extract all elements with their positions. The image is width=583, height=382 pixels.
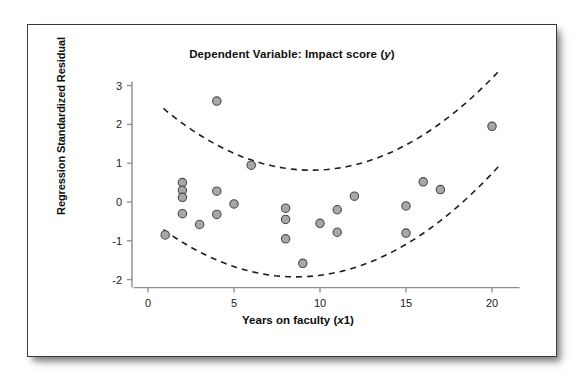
x-tick-label: 20 bbox=[486, 297, 498, 309]
data-point bbox=[213, 187, 221, 195]
data-point bbox=[316, 219, 324, 227]
data-point bbox=[213, 97, 221, 105]
y-tick-label: 2 bbox=[116, 118, 122, 130]
data-point bbox=[419, 178, 427, 186]
y-tick-label: -1 bbox=[112, 235, 122, 247]
scatter-plot-chart: Dependent Variable: Impact score (y) Reg… bbox=[28, 25, 556, 356]
data-point bbox=[281, 235, 289, 243]
data-point bbox=[161, 231, 169, 239]
x-tick-label: 0 bbox=[145, 297, 151, 309]
plot-canvas: -2-1012305101520 bbox=[28, 25, 558, 358]
figure-card: Dependent Variable: Impact score (y) Reg… bbox=[27, 24, 557, 357]
axes-layer bbox=[127, 82, 520, 293]
upper-confidence-band bbox=[163, 71, 498, 170]
data-point bbox=[333, 228, 341, 236]
data-point bbox=[402, 202, 410, 210]
y-tick-label: 3 bbox=[116, 80, 122, 92]
data-point bbox=[333, 206, 341, 214]
data-point bbox=[247, 161, 255, 169]
data-point bbox=[178, 209, 186, 217]
x-tick-label: 10 bbox=[314, 297, 326, 309]
data-point bbox=[178, 193, 186, 201]
data-point bbox=[281, 204, 289, 212]
data-point bbox=[488, 122, 496, 130]
data-point bbox=[213, 210, 221, 218]
data-point bbox=[281, 215, 289, 223]
data-point bbox=[436, 185, 444, 193]
lower-confidence-band bbox=[163, 166, 498, 277]
data-point bbox=[299, 259, 307, 267]
data-point bbox=[230, 200, 238, 208]
x-tick-label: 5 bbox=[231, 297, 237, 309]
y-tick-label: 1 bbox=[116, 157, 122, 169]
data-points-layer bbox=[161, 97, 496, 268]
y-tick-label: -2 bbox=[112, 274, 122, 286]
data-point bbox=[402, 229, 410, 237]
y-tick-label: 0 bbox=[116, 196, 122, 208]
x-tick-label: 15 bbox=[400, 297, 412, 309]
data-point bbox=[195, 220, 203, 228]
data-point bbox=[178, 178, 186, 186]
data-point bbox=[350, 192, 358, 200]
